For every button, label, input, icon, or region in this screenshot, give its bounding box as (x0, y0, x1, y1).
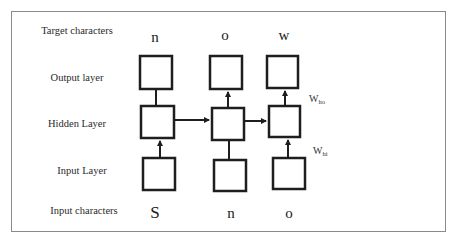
hidden-node-2 (212, 108, 244, 140)
input-node-2 (214, 160, 246, 191)
hidden-node-3 (269, 106, 300, 137)
input-node-3 (273, 158, 305, 189)
input-node-1 (143, 158, 175, 190)
weight-label-hi: Whi (313, 145, 328, 157)
rnn-network-graphic (0, 0, 458, 243)
output-node-3 (267, 56, 298, 88)
output-node-2 (210, 56, 242, 89)
hidden-node-1 (141, 106, 174, 138)
weight-label-ho: Who (309, 93, 325, 105)
output-node-1 (140, 56, 172, 89)
